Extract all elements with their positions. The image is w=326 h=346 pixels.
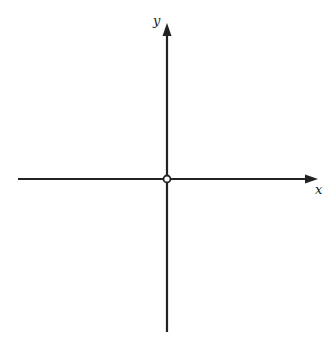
- y-axis-label: y: [152, 13, 161, 28]
- origin-open-circle: [164, 176, 171, 183]
- coordinate-plane: y x: [0, 0, 326, 346]
- y-axis-arrow-icon: [163, 23, 172, 36]
- x-axis-label: x: [315, 182, 323, 197]
